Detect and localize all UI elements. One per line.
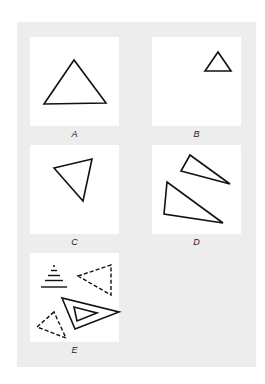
triangle-d-large xyxy=(164,182,223,223)
dashed-triangle-top xyxy=(78,265,111,295)
double-triangle-inner xyxy=(74,307,97,321)
figure-shapes xyxy=(0,0,265,384)
triangle-d-small xyxy=(181,155,230,184)
stacked-lines xyxy=(41,266,67,287)
triangle-b xyxy=(205,52,231,71)
triangle-c xyxy=(54,159,92,201)
dashed-triangle-bottom xyxy=(37,312,66,338)
triangle-a xyxy=(44,60,106,104)
double-triangle-outer xyxy=(62,298,119,329)
